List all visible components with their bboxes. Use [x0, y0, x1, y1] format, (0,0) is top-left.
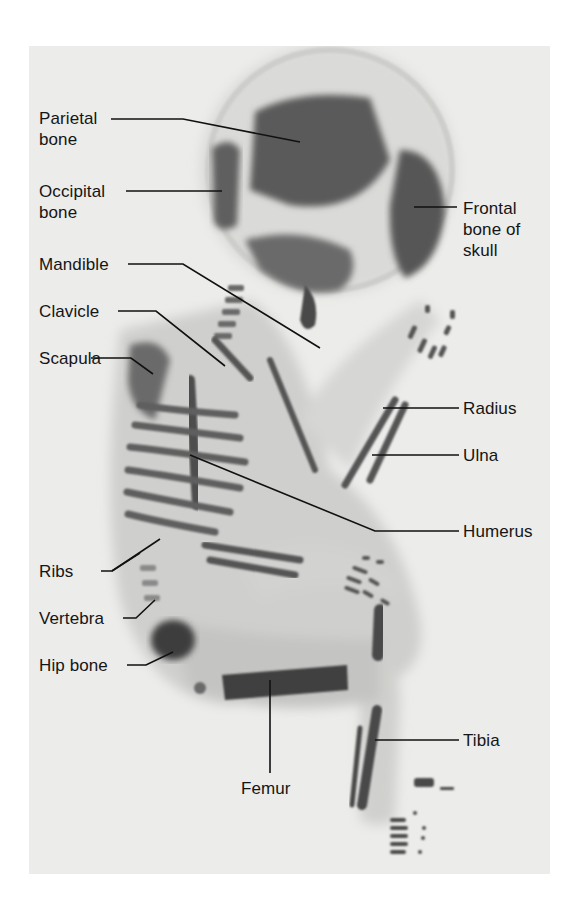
label-vertebra: Vertebra — [39, 608, 104, 629]
label-occipital-bone: Occipital bone — [39, 181, 105, 223]
label-parietal-bone: Parietal bone — [39, 108, 97, 150]
label-femur: Femur — [241, 778, 291, 799]
label-radius: Radius — [463, 398, 517, 419]
label-ulna: Ulna — [463, 445, 498, 466]
occipital-bone-shape — [212, 142, 240, 229]
label-scapula: Scapula — [39, 348, 101, 369]
label-clavicle: Clavicle — [39, 301, 99, 322]
humerus-shape — [190, 380, 197, 505]
hip-bone-shape — [151, 620, 195, 660]
label-hip-bone: Hip bone — [39, 655, 108, 676]
label-mandible: Mandible — [39, 254, 109, 275]
label-frontal-bone: Frontal bone of skull — [463, 198, 520, 261]
skeleton-figure: Parietal bone Occipital bone Mandible Cl… — [29, 46, 550, 874]
label-humerus: Humerus — [463, 521, 533, 542]
label-ribs: Ribs — [39, 561, 73, 582]
label-tibia: Tibia — [463, 730, 500, 751]
foot-bones — [390, 778, 454, 854]
